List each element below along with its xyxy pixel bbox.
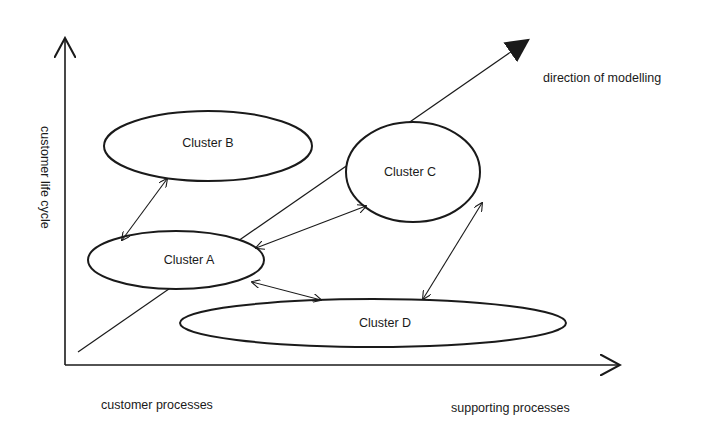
x-axis-label-supporting-processes: supporting processes xyxy=(451,401,570,415)
connector-a-d xyxy=(252,282,321,300)
x-axis-label-customer-processes: customer processes xyxy=(101,398,213,412)
cluster-a-label: Cluster A xyxy=(164,253,215,267)
cluster-c-label: Cluster C xyxy=(384,165,436,179)
cluster-diagram: Cluster B Cluster C Cluster A Cluster D xyxy=(0,0,722,433)
y-axis-label: customer life cycle xyxy=(38,126,52,229)
cluster-d-label: Cluster D xyxy=(359,316,411,330)
cluster-b-label: Cluster B xyxy=(182,136,233,150)
direction-of-modelling-label: direction of modelling xyxy=(543,71,661,85)
connector-a-c xyxy=(256,206,366,248)
